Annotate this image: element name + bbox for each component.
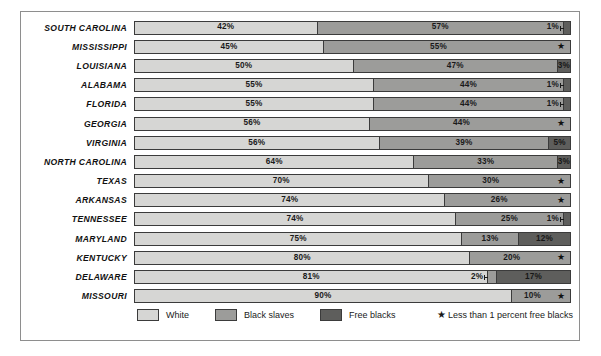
bar-segment-slave: 47% — [353, 60, 557, 72]
legend-item: White — [137, 309, 189, 321]
bar-segment-white: 55% — [135, 98, 373, 110]
bar-segment-white: 42% — [135, 22, 317, 34]
segment-value-label: 50% — [235, 62, 252, 70]
chart-row: NORTH CAROLINA64%33%3% — [21, 152, 581, 171]
stacked-bar: 80%20%★ — [134, 251, 571, 265]
row-star-icon: ★ — [553, 290, 570, 302]
segment-value-label: 39% — [455, 139, 472, 147]
segment-value-label: 1% — [547, 100, 559, 108]
row-star-icon: ★ — [553, 118, 570, 130]
chart-row: ALABAMA55%44%1% — [21, 76, 581, 95]
top-caption-strip — [0, 0, 601, 9]
legend-item: Black slaves — [215, 309, 294, 321]
bar-segment-slave: 55% — [323, 41, 553, 53]
label-leader-line — [560, 219, 564, 220]
segment-value-label: 10% — [524, 292, 541, 300]
segment-value-label: 70% — [273, 177, 290, 185]
bar-segment-slave: 10% — [511, 290, 553, 302]
state-label: TEXAS — [21, 176, 134, 186]
star-icon: ★ — [437, 310, 446, 320]
state-label: LOUISIANA — [21, 61, 134, 71]
bar-segment-slave: 44% — [369, 118, 553, 130]
bar-segment-slave: 57% — [317, 22, 563, 34]
segment-value-label: 1% — [547, 23, 559, 31]
segment-value-label: 3% — [558, 158, 570, 166]
segment-value-label: 57% — [432, 23, 449, 31]
bar-segment-white: 64% — [135, 156, 413, 168]
bar-segment-white: 80% — [135, 252, 469, 264]
chart-row: MISSOURI90%10%★ — [21, 287, 581, 306]
label-leader-line — [560, 85, 564, 86]
legend-swatch — [137, 309, 159, 321]
bar-segment-white: 56% — [135, 137, 379, 149]
bar-segment-free: 1% — [563, 213, 570, 225]
chart-frame: SOUTH CAROLINA42%57%1%MISSISSIPPI45%55%★… — [20, 11, 580, 341]
bar-segment-free: 12% — [518, 233, 570, 245]
segment-value-label: 30% — [482, 177, 499, 185]
bar-segment-white: 56% — [135, 118, 369, 130]
chart-row: KENTUCKY80%20%★ — [21, 248, 581, 267]
stacked-bar: 74%25%1% — [134, 212, 571, 226]
chart-row: GEORGIA56%44%★ — [21, 114, 581, 133]
bar-segment-slave: 33% — [413, 156, 557, 168]
chart-row: FLORIDA55%44%1% — [21, 95, 581, 114]
legend-label: White — [166, 310, 189, 320]
segment-value-label: 25% — [501, 215, 518, 223]
label-leader-line — [560, 104, 564, 105]
chart-row: MISSISSIPPI45%55%★ — [21, 37, 581, 56]
segment-value-label: 55% — [245, 100, 262, 108]
state-label: VIRGINIA — [21, 138, 134, 148]
bar-segment-white: 55% — [135, 79, 373, 91]
legend-label: Free blacks — [349, 310, 396, 320]
segment-value-label: 56% — [248, 139, 265, 147]
stacked-bar: 55%44%1% — [134, 97, 571, 111]
chart-row: ARKANSAS74%26%★ — [21, 191, 581, 210]
bar-segment-white: 50% — [135, 60, 353, 72]
bar-segment-white: 74% — [135, 213, 455, 225]
stacked-bar: 45%55%★ — [134, 40, 571, 54]
bar-segment-slave: 30% — [428, 175, 553, 187]
bar-segment-white: 45% — [135, 41, 323, 53]
stacked-bar: 70%30%★ — [134, 174, 571, 188]
stacked-bar: 56%44%★ — [134, 117, 571, 131]
stacked-bar: 74%26%★ — [134, 193, 571, 207]
legend-swatch — [215, 309, 237, 321]
bar-segment-white: 75% — [135, 233, 461, 245]
stacked-bar: 55%44%1% — [134, 78, 571, 92]
legend-item: Free blacks — [320, 309, 396, 321]
bar-rows-container: SOUTH CAROLINA42%57%1%MISSISSIPPI45%55%★… — [21, 18, 581, 306]
bar-segment-free: 17% — [496, 271, 570, 283]
bar-segment-slave: 2% — [487, 271, 496, 283]
state-label: MISSOURI — [21, 291, 134, 301]
chart-row: SOUTH CAROLINA42%57%1% — [21, 18, 581, 37]
bar-segment-slave: 20% — [469, 252, 553, 264]
state-label: FLORIDA — [21, 99, 134, 109]
stacked-bar: 75%13%12% — [134, 232, 571, 246]
state-label: MARYLAND — [21, 234, 134, 244]
segment-value-label: 74% — [281, 196, 298, 204]
segment-value-label: 44% — [460, 81, 477, 89]
segment-value-label: 17% — [525, 273, 542, 281]
legend-footnote-text: Less than 1 percent free blacks — [448, 310, 573, 320]
state-label: DELAWARE — [21, 272, 134, 282]
legend-keys: WhiteBlack slavesFree blacks — [137, 309, 422, 321]
legend-footnote: ★ Less than 1 percent free blacks — [437, 310, 573, 320]
state-label: NORTH CAROLINA — [21, 157, 134, 167]
segment-value-label: 1% — [547, 215, 559, 223]
bar-segment-slave: 26% — [444, 194, 553, 206]
segment-value-label: 13% — [482, 235, 499, 243]
bar-segment-white: 74% — [135, 194, 444, 206]
state-label: GEORGIA — [21, 119, 134, 129]
bar-segment-free: 5% — [548, 137, 570, 149]
chart-row: DELAWARE81%2%17% — [21, 267, 581, 286]
bar-segment-free: 1% — [563, 22, 570, 34]
segment-value-label: 55% — [245, 81, 262, 89]
stacked-bar: 81%2%17% — [134, 270, 571, 284]
legend-swatch — [320, 309, 342, 321]
chart-legend: WhiteBlack slavesFree blacks ★ Less than… — [21, 304, 581, 326]
segment-value-label: 75% — [290, 235, 307, 243]
chart-row: LOUISIANA50%47%3% — [21, 56, 581, 75]
bar-segment-white: 90% — [135, 290, 511, 302]
segment-value-label: 81% — [303, 273, 320, 281]
bar-segment-white: 70% — [135, 175, 428, 187]
